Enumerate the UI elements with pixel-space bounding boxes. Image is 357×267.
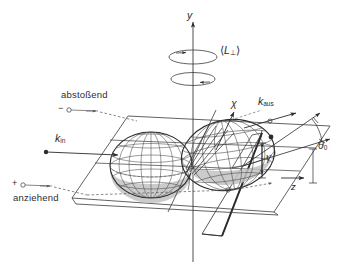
- scattered-beam-marker: [269, 135, 274, 140]
- gamma-angle-label: γ: [266, 152, 271, 163]
- bracket-close-icon: ⟩: [236, 44, 240, 56]
- chi-reference-dash: [231, 110, 262, 120]
- y-axis-label: y: [187, 10, 192, 21]
- k-in-subscript: in: [60, 137, 65, 144]
- cloud-symmetry-axis: [168, 110, 216, 212]
- k-in-label: kin: [55, 133, 65, 145]
- plane-lower-edge: [72, 198, 278, 215]
- scattering-geometry-figure: y ⟨L⊥⟩ abstoßend − anziehend + kin χ kau…: [0, 0, 357, 267]
- plane-guide-lines: [95, 140, 316, 171]
- theta-subscript: 0: [324, 144, 328, 151]
- z-axis-label: z: [291, 182, 296, 192]
- k-aus-label: kaus: [258, 96, 274, 108]
- angular-momentum-label: ⟨L⊥⟩: [220, 45, 240, 57]
- chi-angle-label: χ: [231, 98, 237, 109]
- k-aus-subscript: aus: [263, 100, 273, 107]
- figure-canvas: [0, 0, 357, 267]
- repulsive-sign: −: [58, 104, 63, 113]
- repulsive-label: abstoßend: [61, 90, 108, 100]
- k-aus-vector: [244, 113, 296, 128]
- k-in-vector: [44, 150, 118, 155]
- repulsive-leader: [67, 108, 137, 121]
- theta0-angle-label: θ0: [318, 140, 327, 152]
- attractive-label: anziehend: [13, 193, 59, 203]
- attractive-sign: +: [12, 179, 17, 188]
